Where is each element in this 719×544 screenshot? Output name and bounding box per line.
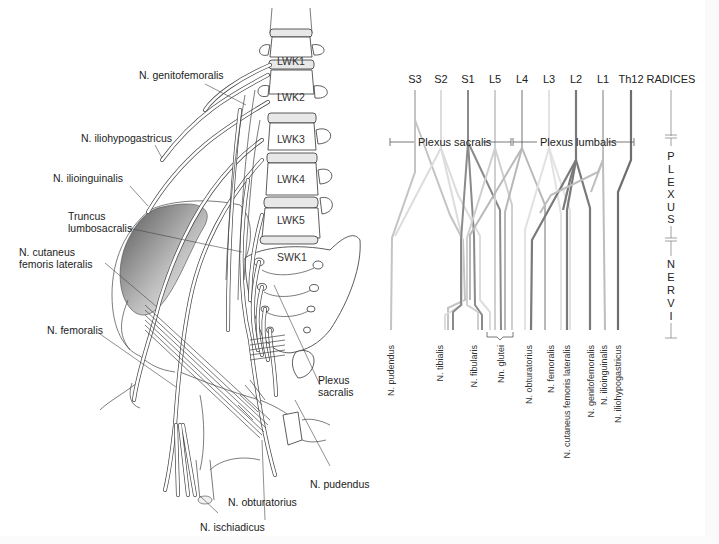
- root-label-l2: L2: [570, 73, 582, 85]
- root-label-l3: L3: [543, 73, 555, 85]
- label-truncus-1: Truncus: [68, 210, 106, 222]
- nerve-label-pudendus: N. pudendus: [386, 345, 396, 397]
- nerve-label-cutaneus-femoris-lateralis: N. cutaneus femoris lateralis: [562, 345, 572, 459]
- scale-letter: E: [667, 176, 674, 188]
- nerve-label-iliohypogastricus: N. iliohypogastricus: [613, 345, 623, 424]
- root-label-th12: Th12: [618, 73, 643, 85]
- label-plexus-sacralis-2: sacralis: [318, 386, 354, 398]
- label-cutaneus-1: N. cutaneus: [19, 246, 75, 258]
- bottom-margin: [0, 536, 705, 544]
- glutei-brace: [487, 332, 513, 340]
- scale-letter: N: [667, 258, 675, 270]
- scale-letter: I: [669, 310, 672, 322]
- nerve-label-fibularis: N. fibularis: [469, 345, 479, 388]
- scale-letter: V: [667, 297, 675, 309]
- label-ilioinguinalis: N. ilioinguinalis: [53, 172, 123, 184]
- plexus-brackets: Plexus sacralis Plexus lumbalis: [390, 136, 634, 148]
- scale-letter: S: [667, 213, 674, 225]
- plexus-sacralis-label: Plexus sacralis: [418, 136, 492, 148]
- vertebra-label-lwk2: LWK2: [277, 91, 305, 103]
- scale-letter: R: [667, 284, 675, 296]
- vertebral-column: [258, 8, 332, 244]
- vertebra-label-lwk1: LWK1: [277, 55, 305, 67]
- nerve-label-ilioinguinalis: N. ilioinguinalis: [599, 345, 609, 406]
- root-label-s1: S1: [461, 73, 474, 85]
- scale-letter: X: [667, 188, 675, 200]
- root-label-l1: L1: [597, 73, 609, 85]
- label-femoralis: N. femoralis: [47, 324, 103, 336]
- label-plexus-sacralis-1: Plexus: [318, 374, 350, 386]
- plexus-lumbalis-label: Plexus lumbalis: [540, 136, 617, 148]
- label-truncus-2: lumbosacralis: [68, 222, 132, 234]
- nerve-label-tibialis: N. tibialis: [435, 345, 445, 382]
- scale-letter: E: [667, 271, 674, 283]
- scale-letter: L: [668, 163, 674, 175]
- scale-letter: P: [667, 150, 674, 162]
- vertebra-label-lwk4: LWK4: [277, 173, 305, 185]
- label-iliohypogastricus: N. iliohypogastricus: [81, 132, 172, 144]
- nerve-label-genitofemoralis: N. genitofemoralis: [586, 345, 596, 418]
- vertebra-label-lwk3: LWK3: [277, 133, 305, 145]
- label-pudendus: N. pudendus: [310, 478, 370, 490]
- vertebra-label-lwk5: LWK5: [277, 214, 305, 226]
- plexus-vertical-letters: P L E X U S: [667, 150, 675, 225]
- anatomical-drawing: LWK1 LWK2 LWK3 LWK4 LWK5 SWK1: [19, 8, 370, 533]
- nervi-vertical-letters: N E R V I: [667, 258, 675, 322]
- lumbosacral-plexus-figure: LWK1 LWK2 LWK3 LWK4 LWK5 SWK1: [0, 0, 719, 544]
- root-pathways: [391, 90, 631, 330]
- side-scale: P L E X U S N E R V I: [665, 90, 677, 338]
- right-margin: [705, 0, 719, 544]
- scale-letter: U: [667, 201, 675, 213]
- label-ischiadicus: N. ischiadicus: [200, 521, 265, 533]
- nerve-label-obturatorius: N. obturatorius: [524, 345, 534, 405]
- root-label-s2: S2: [434, 73, 447, 85]
- plexus-schematic: S3 S2 S1 L5 L4 L3 L2 L1 Th12 RADICES: [386, 73, 695, 459]
- vertebra-label-swk1: SWK1: [277, 251, 307, 263]
- nerve-labels: N. pudendus N. tibialis N. fibularis Nn.…: [386, 345, 623, 459]
- root-label-s3: S3: [408, 73, 421, 85]
- label-obturatorius: N. obturatorius: [228, 496, 297, 508]
- root-label-l5: L5: [489, 73, 501, 85]
- label-cutaneus-2: femoris lateralis: [19, 258, 93, 270]
- nerve-label-glutei: Nn. glutei: [496, 345, 506, 383]
- root-headers: S3 S2 S1 L5 L4 L3 L2 L1 Th12 RADICES: [408, 73, 695, 85]
- radices-header: RADICES: [647, 73, 696, 85]
- nerve-label-femoralis: N. femoralis: [546, 345, 556, 394]
- root-label-l4: L4: [516, 73, 528, 85]
- label-genitofemoralis: N. genitofemoralis: [139, 69, 224, 81]
